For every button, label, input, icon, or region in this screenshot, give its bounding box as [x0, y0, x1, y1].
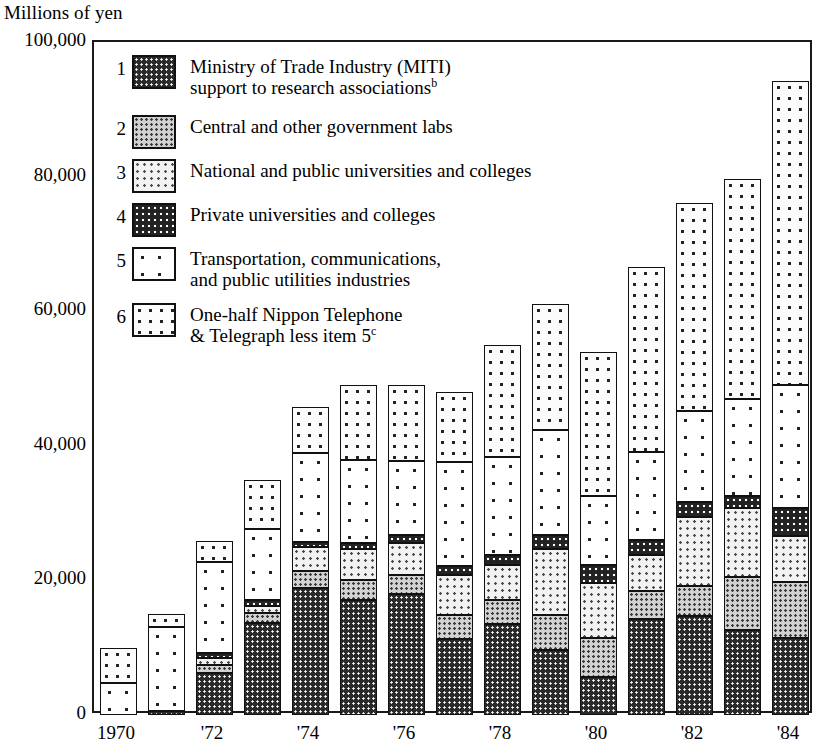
x-tick-label: '82 [681, 722, 703, 744]
bar-segment-1984-series-3 [772, 536, 809, 582]
bar-segment-1972-series-2 [196, 665, 233, 674]
bar-segment-1981-series-5 [628, 452, 665, 540]
bar-segment-1983-series-3 [724, 508, 761, 577]
legend-swatch-2 [132, 115, 176, 149]
bar-segment-1976-series-1 [388, 594, 425, 715]
bar-segment-1974-series-3 [292, 547, 329, 571]
x-tick-label: '74 [297, 722, 319, 744]
x-tick-label: '76 [393, 722, 415, 744]
legend-swatch-6 [132, 303, 176, 337]
legend-item-1: 1Ministry of Trade Industry (MITI)suppor… [104, 55, 451, 99]
y-tick-label: 20,000 [34, 567, 86, 589]
bar-segment-1981-series-6 [628, 267, 665, 452]
legend-number: 4 [104, 203, 126, 226]
bar-1980 [580, 42, 617, 715]
bar-segment-1976-series-4 [388, 535, 425, 543]
legend-number: 2 [104, 115, 126, 138]
bar-segment-1982-series-3 [676, 517, 713, 586]
bar-1978 [484, 42, 521, 715]
x-tick-label: '72 [201, 722, 223, 744]
y-tick-label: 60,000 [34, 298, 86, 320]
bar-segment-1972-series-6 [196, 541, 233, 561]
bar-segment-1976-series-5 [388, 461, 425, 534]
bar-segment-1975-series-6 [340, 385, 377, 460]
bar-segment-1972-series-3 [196, 658, 233, 665]
bar-segment-1979-series-2 [532, 615, 569, 651]
bar-segment-1982-series-6 [676, 203, 713, 412]
bar-segment-1983-series-1 [724, 630, 761, 715]
bar-segment-1976-series-3 [388, 543, 425, 575]
bar-segment-1975-series-3 [340, 549, 377, 580]
bar-segment-1972-series-1 [196, 673, 233, 715]
bar-segment-1983-series-2 [724, 577, 761, 630]
bar-segment-1977-series-4 [436, 566, 473, 575]
legend-number: 1 [104, 55, 126, 78]
y-tick-label: 40,000 [34, 433, 86, 455]
bar-segment-1984-series-1 [772, 638, 809, 715]
bar-1982 [676, 42, 713, 715]
bar-segment-1973-series-3 [244, 606, 281, 613]
legend-swatch-3 [132, 159, 176, 193]
bar-segment-1981-series-2 [628, 591, 665, 619]
bar-segment-1972-series-5 [196, 562, 233, 654]
bar-segment-1984-series-4 [772, 508, 809, 536]
y-axis-labels: 020,00040,00060,00080,000100,000 [0, 0, 86, 754]
bar-segment-1972-series-4 [196, 653, 233, 658]
bar-segment-1983-series-5 [724, 399, 761, 496]
bar-segment-1974-series-6 [292, 407, 329, 453]
bar-segment-1979-series-4 [532, 535, 569, 550]
bar-1983 [724, 42, 761, 715]
legend-item-2: 2Central and other government labs [104, 115, 453, 149]
legend-item-6: 6One-half Nippon Telephone& Telegraph le… [104, 303, 403, 347]
legend-item-5: 5Transportation, communications,and publ… [104, 247, 441, 291]
bar-segment-1980-series-5 [580, 496, 617, 565]
legend-label: Central and other government labs [190, 115, 453, 137]
bar-segment-1984-series-5 [772, 385, 809, 508]
legend-label: Ministry of Trade Industry (MITI)support… [190, 55, 451, 99]
bar-segment-1983-series-4 [724, 496, 761, 508]
bar-segment-1970-series-5 [100, 683, 137, 715]
legend-label: Private universities and colleges [190, 203, 435, 225]
bar-segment-1975-series-1 [340, 600, 377, 715]
bar-segment-1971-series-6 [148, 614, 185, 627]
legend-label: Transportation, communications,and publi… [190, 247, 441, 291]
bar-segment-1974-series-4 [292, 542, 329, 547]
legend-item-4: 4Private universities and colleges [104, 203, 435, 237]
bar-segment-1983-series-6 [724, 179, 761, 399]
bar-segment-1978-series-4 [484, 555, 521, 565]
x-tick-label: 1970 [97, 722, 135, 744]
bar-segment-1982-series-5 [676, 411, 713, 502]
bar-segment-1975-series-5 [340, 460, 377, 543]
bar-segment-1973-series-5 [244, 529, 281, 600]
bar-segment-1978-series-5 [484, 457, 521, 555]
legend-swatch-5 [132, 247, 176, 281]
bar-segment-1978-series-6 [484, 345, 521, 457]
bar-segment-1971-series-5 [148, 627, 185, 711]
bar-segment-1975-series-4 [340, 543, 377, 549]
legend-label: One-half Nippon Telephone& Telegraph les… [190, 303, 403, 347]
bar-segment-1973-series-1 [244, 623, 281, 715]
bar-segment-1976-series-6 [388, 385, 425, 461]
bar-segment-1978-series-1 [484, 624, 521, 715]
legend-swatch-4 [132, 203, 176, 237]
bar-1981 [628, 42, 665, 715]
bar-segment-1982-series-2 [676, 586, 713, 616]
bar-segment-1976-series-2 [388, 575, 425, 594]
bar-segment-1974-series-2 [292, 571, 329, 588]
x-tick-label: '80 [585, 722, 607, 744]
bar-segment-1980-series-3 [580, 583, 617, 638]
legend-number: 6 [104, 303, 126, 326]
y-tick-label: 80,000 [34, 164, 86, 186]
bar-segment-1971-series-1 [148, 711, 185, 715]
bar-segment-1975-series-2 [340, 580, 377, 600]
bar-segment-1981-series-4 [628, 540, 665, 555]
bar-segment-1977-series-1 [436, 639, 473, 715]
bar-segment-1977-series-3 [436, 575, 473, 615]
bar-segment-1981-series-1 [628, 619, 665, 715]
bar-segment-1982-series-1 [676, 616, 713, 715]
legend-swatch-1 [132, 55, 176, 89]
bar-segment-1977-series-2 [436, 615, 473, 639]
bar-segment-1977-series-6 [436, 392, 473, 462]
legend-number: 3 [104, 159, 126, 182]
bar-segment-1979-series-3 [532, 549, 569, 614]
